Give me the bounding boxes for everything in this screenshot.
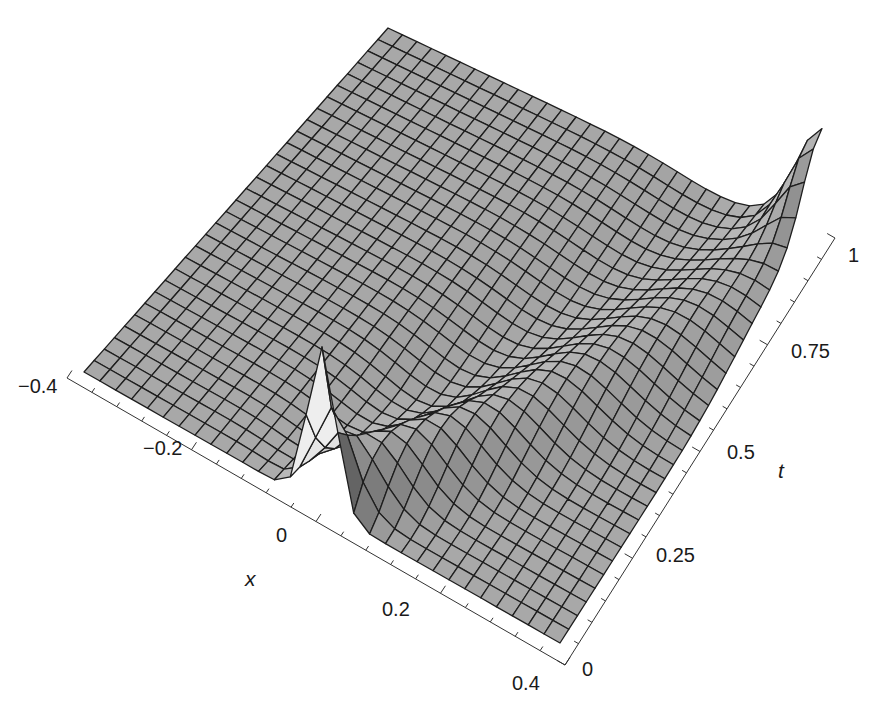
surface-plot [0,0,876,712]
x-tick-label: 0 [276,524,287,547]
x-tick-label: −0.2 [143,437,182,460]
t-tick-label: 0.5 [727,441,755,464]
x-tick-label: 0.2 [382,598,410,621]
t-tick-label: 0 [582,658,593,681]
t-tick-label: 0.25 [656,544,695,567]
x-tick-label: 0.4 [512,672,540,695]
t-tick-label: 0.75 [791,340,830,363]
t-axis-title: t [778,459,784,483]
x-tick-label: −0.4 [18,375,57,398]
x-axis-title: x [245,567,256,591]
t-tick-label: 1 [848,244,859,267]
surface-mesh [84,28,822,643]
